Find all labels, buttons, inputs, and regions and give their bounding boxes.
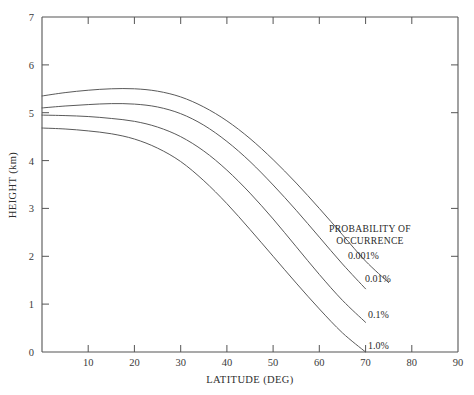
y-tick-label-0: 0 <box>29 347 34 358</box>
x-tick-label-80: 80 <box>407 357 418 368</box>
y-axis-title: HEIGHT (km) <box>7 152 19 218</box>
legend-label-1-0: 1.0% <box>368 340 389 351</box>
x-axis-title: LATITUDE (DEG) <box>206 374 294 386</box>
x-tick-label-50: 50 <box>268 357 279 368</box>
y-tick-label-1: 1 <box>29 299 34 310</box>
x-tick-label-90: 90 <box>453 357 464 368</box>
y-tick-label-4: 4 <box>29 156 35 167</box>
x-tick-label-30: 30 <box>175 357 186 368</box>
probability-of-occurrence-chart: 10 20 30 40 50 60 70 80 90 0 1 2 3 4 5 6… <box>0 0 474 395</box>
y-tick-label-2: 2 <box>29 251 34 262</box>
legend-title-line2: OCCURRENCE <box>336 235 404 246</box>
x-tick-label-60: 60 <box>314 357 325 368</box>
x-tick-label-10: 10 <box>83 357 94 368</box>
x-tick-label-20: 20 <box>129 357 140 368</box>
chart-figure: 10 20 30 40 50 60 70 80 90 0 1 2 3 4 5 6… <box>0 0 474 395</box>
x-tick-label-40: 40 <box>222 357 233 368</box>
legend-label-0-001: 0.001% <box>348 250 379 261</box>
legend-title-line1: PROBABILITY OF <box>329 223 411 234</box>
y-tick-label-6: 6 <box>29 60 34 71</box>
y-tick-label-3: 3 <box>29 203 34 214</box>
y-tick-label-7: 7 <box>29 12 34 23</box>
legend-label-0-1: 0.1% <box>368 309 389 320</box>
y-tick-label-5: 5 <box>29 108 34 119</box>
chart-background <box>0 0 474 395</box>
x-tick-label-70: 70 <box>360 357 371 368</box>
legend-label-0-01: 0.01% <box>365 273 391 284</box>
